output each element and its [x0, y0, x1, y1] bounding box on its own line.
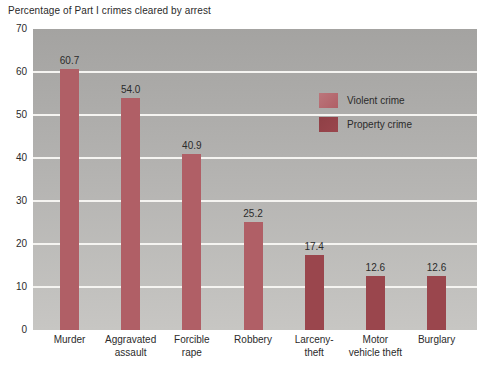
crime-clearance-chart: Percentage of Part I crimes cleared by a… — [0, 0, 485, 372]
x-tick-label: Burglary — [394, 334, 480, 347]
gridline — [33, 157, 477, 159]
bar-aggravated — [121, 98, 140, 330]
bar-value-label: 12.6 — [407, 262, 467, 273]
y-tick-label: 20 — [0, 238, 27, 250]
bar-forcible — [182, 154, 201, 330]
bar-value-label: 40.9 — [162, 140, 222, 151]
gridline — [33, 71, 477, 73]
bar-robbery — [244, 222, 263, 330]
y-tick-label: 70 — [0, 23, 27, 35]
bar-value-label: 17.4 — [284, 241, 344, 252]
bar-value-label: 60.7 — [40, 55, 100, 66]
y-tick-label: 30 — [0, 195, 27, 207]
y-tick-label: 50 — [0, 109, 27, 121]
y-tick-label: 60 — [0, 66, 27, 78]
bar-murder — [60, 69, 79, 330]
bar-value-label: 25.2 — [223, 208, 283, 219]
legend-swatch-property — [319, 117, 338, 132]
chart-title: Percentage of Part I crimes cleared by a… — [8, 5, 211, 16]
legend-item-violent: Violent crime — [319, 93, 412, 108]
y-tick-label: 0 — [0, 324, 27, 336]
bar-value-label: 54.0 — [101, 84, 161, 95]
y-tick-label: 10 — [0, 281, 27, 293]
legend-item-property: Property crime — [319, 117, 412, 132]
plot-area: 60.754.040.925.217.412.612.6Violent crim… — [33, 29, 477, 330]
bar-larceny — [305, 255, 324, 330]
legend-swatch-violent — [319, 93, 338, 108]
bar-value-label: 12.6 — [345, 262, 405, 273]
y-tick-label: 40 — [0, 152, 27, 164]
legend: Violent crimeProperty crime — [319, 93, 412, 141]
legend-label-violent: Violent crime — [347, 95, 405, 106]
bar-motor — [366, 276, 385, 330]
legend-label-property: Property crime — [347, 119, 412, 130]
bar-burglary — [427, 276, 446, 330]
gridline — [33, 200, 477, 202]
